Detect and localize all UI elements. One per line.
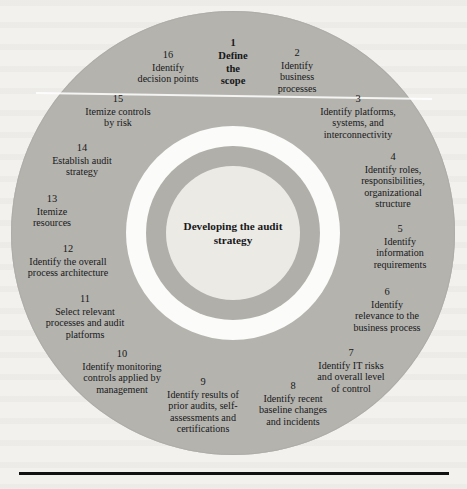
- step-number: 7: [317, 347, 384, 359]
- step-number: 14: [52, 142, 112, 154]
- step-number: 13: [33, 193, 71, 205]
- circular-process-diagram: Developing the audit strategy 1Definethe…: [0, 0, 467, 489]
- center-label-line-1: Developing the audit: [184, 220, 283, 232]
- step-label-line: Identify roles,: [361, 163, 425, 175]
- step-label-line: process architecture: [28, 267, 108, 279]
- step-label-line: processes: [278, 83, 317, 95]
- process-step-11: 11Select relevantprocesses and auditplat…: [46, 293, 124, 340]
- step-number: 8: [259, 380, 327, 392]
- process-step-1: 1Definethescope: [218, 37, 247, 88]
- step-label-line: responsibilities,: [361, 175, 425, 187]
- step-label-line: scope: [218, 75, 247, 88]
- step-label-line: prior audits, self-: [167, 400, 239, 412]
- step-number: 2: [278, 47, 317, 59]
- center-label-line-2: strategy: [214, 234, 253, 246]
- process-step-3: 3Identify platforms,systems, andintercon…: [320, 93, 396, 140]
- step-label-line: Identify: [278, 60, 317, 72]
- step-number: 11: [46, 293, 124, 305]
- process-step-9: 9Identify results ofprior audits, self-a…: [167, 376, 239, 435]
- step-label-line: Identify the overall: [28, 256, 108, 268]
- step-label-line: systems, and: [320, 118, 396, 130]
- step-label-line: certifications: [167, 423, 239, 435]
- step-label-line: Identify: [353, 299, 420, 311]
- step-label-line: platforms: [46, 329, 124, 341]
- step-label-line: Identify: [374, 236, 427, 248]
- step-label-line: Identify: [138, 62, 199, 74]
- step-label-line: of control: [317, 383, 384, 395]
- step-label-line: the: [218, 62, 247, 75]
- process-step-10: 10Identify monitoringcontrols applied by…: [82, 348, 161, 395]
- process-step-15: 15Itemize controlsby risk: [85, 93, 150, 129]
- step-number: 4: [361, 151, 425, 163]
- step-label-line: Identify IT risks: [317, 360, 384, 372]
- step-label-line: Identify recent: [259, 393, 327, 405]
- step-number: 5: [374, 223, 427, 235]
- step-label-line: interconnectivity: [320, 129, 396, 141]
- step-label-line: Define: [218, 49, 247, 62]
- step-label-line: business process: [353, 322, 420, 334]
- step-label-line: requirements: [374, 259, 427, 271]
- step-label-line: baseline changes: [259, 405, 327, 417]
- step-label-line: controls applied by: [82, 373, 161, 385]
- step-label-line: relevance to the: [353, 311, 420, 323]
- process-step-16: 16Identifydecision points: [138, 49, 199, 85]
- step-label-line: business: [278, 72, 317, 84]
- step-label-line: processes and audit: [46, 318, 124, 330]
- step-label-line: Identify monitoring: [82, 361, 161, 373]
- center-label: Developing the audit strategy: [169, 219, 297, 247]
- step-label-line: structure: [361, 198, 425, 210]
- step-label-line: and incidents: [259, 416, 327, 428]
- process-step-12: 12Identify the overallprocess architectu…: [28, 243, 108, 279]
- step-label-line: assessments and: [167, 411, 239, 423]
- step-label-line: management: [82, 384, 161, 396]
- step-number: 12: [28, 243, 108, 255]
- step-label-line: by risk: [85, 117, 150, 129]
- process-step-5: 5Identifyinformationrequirements: [374, 223, 427, 270]
- process-step-4: 4Identify roles,responsibilities,organiz…: [361, 151, 425, 210]
- step-number: 3: [320, 93, 396, 105]
- step-number: 1: [218, 37, 247, 49]
- step-label-line: Itemize controls: [85, 106, 150, 118]
- step-label-line: strategy: [52, 166, 112, 178]
- step-label-line: decision points: [138, 73, 199, 85]
- bottom-horizontal-rule: [19, 472, 449, 475]
- step-label-line: Select relevant: [46, 306, 124, 318]
- step-number: 6: [353, 286, 420, 298]
- process-step-7: 7Identify IT risksand overall levelof co…: [317, 347, 384, 394]
- step-label-line: Itemize: [33, 206, 71, 218]
- process-step-2: 2Identifybusinessprocesses: [278, 47, 317, 94]
- step-label-line: Identify results of: [167, 388, 239, 400]
- step-number: 10: [82, 348, 161, 360]
- step-label-line: information: [374, 248, 427, 260]
- process-step-13: 13Itemizeresources: [33, 193, 71, 229]
- process-step-14: 14Establish auditstrategy: [52, 142, 112, 178]
- step-number: 9: [167, 376, 239, 388]
- step-number: 15: [85, 93, 150, 105]
- process-step-8: 8Identify recentbaseline changesand inci…: [259, 380, 327, 427]
- step-number: 16: [138, 49, 199, 61]
- step-label-line: organizational: [361, 186, 425, 198]
- step-label-line: Identify platforms,: [320, 106, 396, 118]
- step-label-line: and overall level: [317, 372, 384, 384]
- process-step-6: 6Identifyrelevance to thebusiness proces…: [353, 286, 420, 333]
- step-label-line: resources: [33, 217, 71, 229]
- step-label-line: Establish audit: [52, 155, 112, 167]
